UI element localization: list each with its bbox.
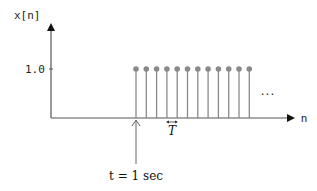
x-axis-arrow-icon <box>287 114 295 122</box>
stem-marker <box>154 66 160 72</box>
stem-marker <box>236 66 242 72</box>
stems <box>133 66 252 118</box>
stem-marker <box>133 66 139 72</box>
stem-marker <box>226 66 232 72</box>
stem-marker <box>216 66 222 72</box>
stem-marker <box>185 66 191 72</box>
y-tick-label: 1.0 <box>25 63 45 76</box>
x-axis-label: n <box>301 112 308 125</box>
time-label: t = 1 sec <box>109 169 163 183</box>
stem-marker <box>205 66 211 72</box>
stem-marker <box>247 66 253 72</box>
stem-marker <box>144 66 150 72</box>
stem-marker <box>174 66 180 72</box>
time-annotation: t = 1 sec <box>109 120 163 183</box>
stem-plot-diagram: x[n] n 1.0 ··· T t = 1 sec <box>0 0 317 191</box>
y-axis-label: x[n] <box>14 9 41 22</box>
period-marker: T <box>166 121 178 139</box>
y-axis-arrow-icon <box>47 23 55 31</box>
stem-marker <box>195 66 201 72</box>
stem-marker <box>164 66 170 72</box>
period-label: T <box>168 124 177 138</box>
ellipsis: ··· <box>261 88 275 102</box>
axes <box>47 23 295 122</box>
